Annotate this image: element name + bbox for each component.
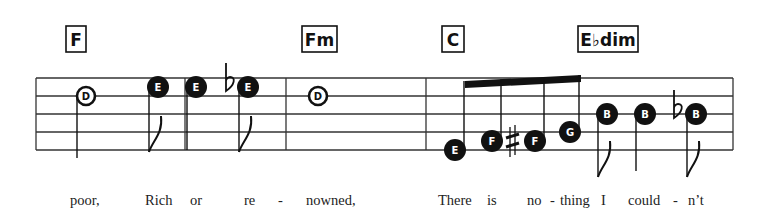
note-letter: E [155,82,162,93]
lyric-syllable: is [487,192,497,208]
note-flag [149,116,161,152]
staff-lines [36,78,733,150]
note: B [634,103,656,171]
note-letter: F [489,136,496,147]
note: F [481,79,503,152]
note-flag [687,141,699,177]
note-flag [598,141,610,177]
notes: DEEEDEFFGBBB [77,63,707,177]
note-flag [239,116,251,152]
beam [465,75,581,88]
lyric-syllable: There [438,192,472,208]
note-letter: G [566,127,574,138]
lyric-syllable: nowned, [306,192,356,208]
note: E [185,76,207,150]
flat-icon [226,63,234,91]
chord-label: E♭dim [580,30,635,50]
note: D [77,87,95,158]
note-letter: D [82,91,90,102]
note-letter: E [193,82,200,93]
chord-label: Fm [305,30,334,50]
lyric-syllable: Rich [145,192,173,208]
lyrics: poor,Richorre-nowned,Thereisno-thingIcou… [70,192,704,208]
chord-label: F [70,30,82,50]
note-letter: D [314,91,322,102]
lyric-syllable: poor, [70,192,100,208]
lyric-syllable: - [550,192,555,208]
lyric-syllable: - [278,192,283,208]
note: D [309,87,327,105]
chord-symbols: FFmCE♭dim [66,26,638,52]
lyric-syllable: I [601,192,606,208]
chord-label: C [447,30,459,50]
note-letter: E [452,145,459,156]
lyric-syllable: re [244,192,255,208]
note-letter: E [245,82,252,93]
note: F [506,77,546,157]
note-letter: B [641,109,649,120]
chord-symbol: Fm [302,26,337,52]
lyric-syllable: could [628,192,661,208]
music-score: FFmCE♭dim DEEEDEFFGBBB poor,Richorre-now… [0,0,771,224]
sharp-icon [506,125,519,157]
lyric-syllable: thing [560,192,590,208]
chord-symbol: F [66,26,86,52]
lyric-syllable: no [527,192,542,208]
beam-bar [465,75,581,88]
note-letter: F [532,136,539,147]
note: E [226,63,259,152]
chord-symbol: E♭dim [578,26,638,52]
lyric-syllable: n’t [688,192,704,208]
note: E [444,81,466,161]
note: B [674,90,707,177]
note: B [596,103,618,177]
lyric-syllable: or [190,192,202,208]
note-letter: B [692,109,700,120]
note-letter: B [603,109,611,120]
chord-symbol: C [442,26,464,52]
note: G [559,75,581,143]
lyric-syllable: - [673,192,678,208]
